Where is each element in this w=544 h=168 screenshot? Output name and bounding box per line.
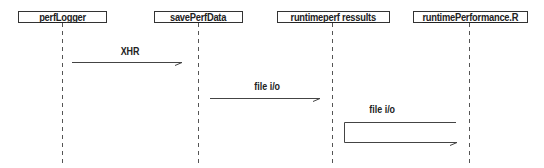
message-label-file-io-1: file i/o (254, 80, 280, 92)
message-arrow-xhr (72, 63, 182, 66)
actor-perflogger: perfLogger (18, 11, 107, 23)
actor-saveperfdata: savePerfData (154, 11, 243, 23)
actor-label: runtimePerformance.R (423, 12, 519, 22)
actor-runtimeperformance-r: runtimePerformance.R (413, 11, 528, 23)
actor-label: runtimeperf ressults (291, 12, 376, 22)
message-arrow-file-io-2 (345, 123, 458, 146)
actor-label: savePerfData (170, 12, 226, 22)
sequence-diagram: perfLogger savePerfData runtimeperf ress… (0, 0, 544, 168)
actor-runtimeperf-ressults: runtimeperf ressults (277, 11, 390, 23)
actor-label: perfLogger (39, 12, 86, 22)
message-label-xhr: XHR (121, 45, 140, 57)
message-label-file-io-2: file i/o (369, 103, 395, 115)
message-arrow-file-io-1 (210, 99, 320, 102)
